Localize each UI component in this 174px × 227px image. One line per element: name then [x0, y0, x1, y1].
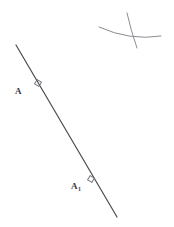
point-label-a: A — [15, 81, 22, 97]
main-diagonal-line — [16, 45, 117, 217]
figure-canvas: A A1 — [0, 0, 174, 227]
shallow-arc — [99, 27, 161, 37]
point-label-a-base: A — [15, 86, 22, 96]
point-label-a1: A1 — [71, 176, 81, 192]
steep-arc — [127, 13, 137, 48]
point-label-a1-base: A — [71, 181, 78, 191]
point-label-a1-subscript: 1 — [78, 186, 81, 192]
figure-drawing-surface — [0, 0, 174, 227]
